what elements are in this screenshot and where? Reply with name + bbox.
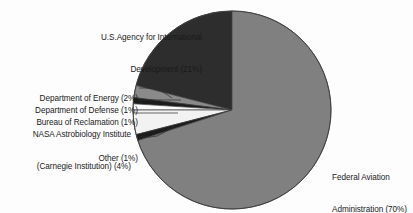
slice-label-other: Other (1%)	[2, 133, 138, 186]
slice-label-faa-line2: Administration (70%)	[332, 205, 412, 213]
slice-label-usaid-line1: U.S.Agency for International	[52, 33, 202, 44]
slice-label-federal-aviation-administration: Federal Aviation Administration (70%)	[332, 152, 412, 213]
slice-label-other-line1: Other (1%)	[2, 154, 138, 165]
pie-chart-figure: U.S.Agency for International Development…	[0, 0, 413, 213]
slice-label-faa-line1: Federal Aviation	[332, 173, 412, 184]
